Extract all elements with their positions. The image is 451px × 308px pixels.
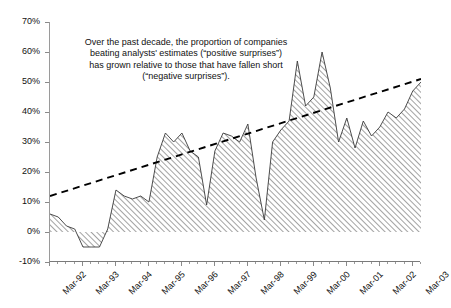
y-tick-label: 0% (0, 227, 40, 236)
x-tick-label: Mar-97 (226, 270, 253, 297)
x-tick-mark (379, 262, 380, 266)
y-tick-label: 40% (0, 107, 40, 116)
y-tick-label: -10% (0, 257, 40, 266)
x-minor-tick (321, 262, 322, 264)
x-tick-label: Mar-99 (292, 270, 319, 297)
x-minor-tick (230, 262, 231, 264)
x-tick-label: Mar-93 (94, 270, 121, 297)
x-minor-tick (140, 262, 141, 264)
x-minor-tick (338, 262, 339, 264)
x-tick-label: Mar-92 (61, 270, 88, 297)
y-tick-label: 50% (0, 77, 40, 86)
x-tick-label: Mar-01 (358, 270, 385, 297)
x-minor-tick (74, 262, 75, 264)
x-minor-tick (288, 262, 289, 264)
y-tick-label: 10% (0, 197, 40, 206)
x-tick-label: Mar-02 (391, 270, 418, 297)
x-minor-tick (404, 262, 405, 264)
x-minor-tick (387, 262, 388, 264)
x-minor-tick (255, 262, 256, 264)
x-minor-tick (98, 262, 99, 264)
x-tick-label: Mar-94 (127, 270, 154, 297)
x-minor-tick (420, 262, 421, 264)
x-minor-tick (65, 262, 66, 264)
x-minor-tick (164, 262, 165, 264)
x-tick-mark (313, 262, 314, 266)
x-tick-mark (214, 262, 215, 266)
y-tick-label: 30% (0, 137, 40, 146)
chart-annotation: Over the past decade, the proportion of … (56, 37, 316, 83)
x-minor-tick (329, 262, 330, 264)
x-minor-tick (239, 262, 240, 264)
x-minor-tick (189, 262, 190, 264)
x-minor-tick (263, 262, 264, 264)
x-minor-tick (90, 262, 91, 264)
x-minor-tick (371, 262, 372, 264)
x-minor-tick (354, 262, 355, 264)
x-tick-mark (148, 262, 149, 266)
x-tick-label: Mar-03 (424, 270, 451, 297)
x-tick-mark (247, 262, 248, 266)
y-tick-label: 60% (0, 47, 40, 56)
x-tick-mark (181, 262, 182, 266)
x-minor-tick (107, 262, 108, 264)
y-tick-label: 70% (0, 17, 40, 26)
x-minor-tick (362, 262, 363, 264)
x-tick-mark (115, 262, 116, 266)
x-minor-tick (222, 262, 223, 264)
x-tick-mark (346, 262, 347, 266)
x-tick-label: Mar-95 (160, 270, 187, 297)
x-tick-mark (49, 262, 50, 266)
x-tick-label: Mar-96 (193, 270, 220, 297)
x-tick-label: Mar-98 (259, 270, 286, 297)
x-minor-tick (156, 262, 157, 264)
y-tick-label: 20% (0, 167, 40, 176)
x-tick-label: Mar-00 (325, 270, 352, 297)
x-minor-tick (296, 262, 297, 264)
x-tick-mark (82, 262, 83, 266)
x-minor-tick (206, 262, 207, 264)
x-minor-tick (123, 262, 124, 264)
x-minor-tick (57, 262, 58, 264)
x-tick-mark (280, 262, 281, 266)
x-tick-mark (412, 262, 413, 266)
x-minor-tick (305, 262, 306, 264)
x-minor-tick (197, 262, 198, 264)
x-minor-tick (395, 262, 396, 264)
x-minor-tick (131, 262, 132, 264)
x-minor-tick (173, 262, 174, 264)
x-minor-tick (272, 262, 273, 264)
